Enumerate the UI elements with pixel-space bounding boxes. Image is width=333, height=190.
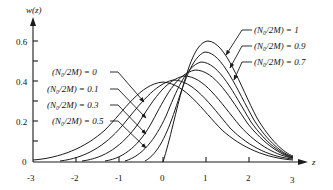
annotations-right: (N₀/2M) = 1 (N₀/2M) = 0.9 (N₀/2M) = 0.7: [226, 25, 306, 80]
y-axis-arrow-icon: [30, 17, 36, 26]
x-tick-labels: -3 -2 -1 0 1 2 3: [27, 173, 295, 185]
curve-0.7: [125, 62, 293, 161]
svg-text:0.2: 0.2: [16, 117, 27, 127]
label-n0-0.7: (N₀/2M) = 0.7: [254, 57, 306, 67]
label-n0-0.1: (N₀/2M) = 0.1: [47, 84, 98, 94]
label-n0-0.5: (N₀/2M) = 0.5: [52, 116, 104, 126]
svg-text:3: 3: [290, 175, 295, 185]
pdf-curve-chart: w(z) z -3 -2 -1 0 1 2 3 0 0.2 0.4 0.6 (N…: [0, 0, 333, 190]
svg-text:0.4: 0.4: [16, 77, 28, 87]
svg-text:2: 2: [246, 173, 251, 183]
x-axis-label: z: [311, 157, 316, 167]
label-n0-0.9: (N₀/2M) = 0.9: [254, 41, 306, 51]
svg-text:1: 1: [203, 173, 208, 183]
svg-text:-1: -1: [115, 173, 123, 183]
svg-text:0: 0: [22, 157, 27, 167]
y-tick-labels: 0 0.2 0.4 0.6: [16, 37, 28, 167]
annotations-left: (N₀/2M) = 0 (N₀/2M) = 0.1 (N₀/2M) = 0.3 …: [47, 67, 146, 148]
svg-text:-3: -3: [27, 173, 35, 183]
label-n0-0: (N₀/2M) = 0: [52, 67, 97, 77]
x-axis-arrow-icon: [298, 159, 308, 165]
y-axis-label: w(z): [26, 5, 42, 15]
svg-text:-2: -2: [71, 173, 79, 183]
y-axis: [30, 17, 38, 162]
svg-text:0.6: 0.6: [16, 37, 28, 47]
label-n0-1: (N₀/2M) = 1: [254, 25, 299, 35]
svg-text:0: 0: [160, 173, 165, 183]
label-n0-0.3: (N₀/2M) = 0.3: [47, 100, 99, 110]
